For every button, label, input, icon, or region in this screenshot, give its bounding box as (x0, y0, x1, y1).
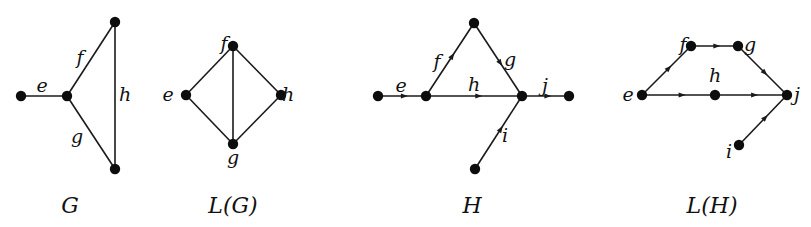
vertex-j (782, 90, 792, 100)
edge-e-g (186, 95, 233, 144)
vertex-label-h: h (282, 83, 294, 105)
vertex (469, 18, 479, 28)
edge-label-f: f (74, 46, 86, 68)
vertex-label-g: g (227, 146, 239, 168)
vertex-e (637, 90, 647, 100)
arrowhead-icon (448, 53, 454, 60)
vertex-label-e: e (162, 83, 173, 105)
graph-lh: fgehjiL(H) (622, 33, 800, 218)
vertex-label-i: i (726, 140, 732, 162)
vertex (110, 164, 120, 174)
vertex-label-e: e (622, 83, 633, 105)
vertex-label-h: h (709, 64, 721, 86)
edge-f (67, 22, 115, 96)
vertex (517, 91, 527, 101)
caption-g: G (61, 193, 79, 218)
edge-label-j: j (538, 74, 548, 96)
vertex-i (734, 140, 744, 150)
edge-f-h (233, 46, 281, 95)
arrowhead-icon (713, 43, 720, 48)
vertex-f (686, 41, 696, 51)
vertex (470, 164, 480, 174)
edge-label-i: i (502, 124, 508, 146)
vertex (62, 91, 72, 101)
graph-lg: fehgL(G) (162, 32, 294, 218)
edge-label-g: g (71, 125, 83, 147)
vertex-f (228, 41, 238, 51)
vertex (564, 91, 574, 101)
graph-h: efghjiH (373, 18, 574, 218)
figure-svg: efghGfehgL(G)efghjiHfgehjiL(H) (0, 0, 811, 227)
vertex-e (181, 90, 191, 100)
arrowhead-icon (679, 92, 686, 97)
edge-label-h: h (468, 73, 480, 95)
line-graph-figure: efghGfehgL(G)efghjiHfgehjiL(H) (0, 0, 811, 227)
vertex (421, 91, 431, 101)
edge-h-g (233, 95, 281, 144)
vertex-g (733, 41, 743, 51)
caption-h: H (461, 193, 482, 218)
arrowhead-icon (496, 59, 502, 66)
caption-lh: L(H) (686, 193, 738, 218)
caption-lg: L(G) (207, 193, 257, 218)
edge-i (475, 96, 522, 169)
vertex-h (710, 90, 720, 100)
edge-label-h: h (119, 83, 131, 105)
edge-label-e: e (36, 74, 47, 96)
arrowhead-icon (751, 92, 758, 97)
vertex-label-g: g (744, 33, 756, 55)
edge-label-f: f (431, 50, 443, 72)
vertex (16, 91, 26, 101)
edge-label-g: g (504, 48, 516, 70)
graph-g: efghG (16, 17, 131, 218)
vertex (373, 91, 383, 101)
vertex (110, 17, 120, 27)
edge-label-e: e (395, 74, 406, 96)
